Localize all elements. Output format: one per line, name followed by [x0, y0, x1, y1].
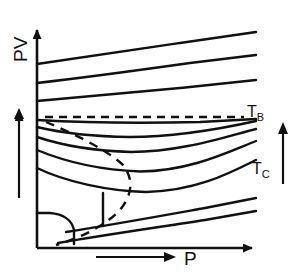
tc-symbol: T	[252, 160, 262, 177]
tb-symbol: T	[247, 103, 257, 120]
tb-subscript: B	[257, 111, 264, 123]
p-direction-arrowhead	[164, 252, 176, 262]
tc-direction-arrowhead	[278, 122, 288, 134]
boyle-temperature-label: TB	[247, 103, 264, 123]
boyle-curve-minima-locus	[46, 122, 130, 245]
isotherms-group	[37, 32, 256, 243]
isotherm-curve-3	[37, 80, 256, 101]
isotherm-curve-boyle-TB	[37, 119, 256, 123]
tc-subscript: C	[262, 168, 270, 180]
y-axis-label: PV	[10, 37, 32, 62]
isotherm-curve-8-TC	[37, 160, 256, 192]
x-axis-label: P	[184, 248, 197, 270]
saturation-dome-curve	[37, 213, 74, 244]
pv-direction-arrowhead	[14, 108, 24, 119]
critical-temperature-label: TC	[252, 160, 270, 180]
plot-canvas	[0, 0, 297, 277]
amagat-diagram-figure: PV P TB TC	[0, 0, 297, 277]
